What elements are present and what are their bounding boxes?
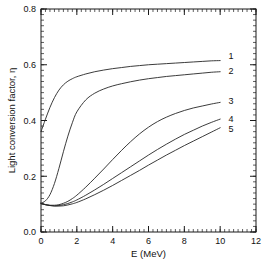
y-tick-label: 0.0 <box>23 227 36 237</box>
y-axis-title: Light conversion factor, η <box>6 68 17 174</box>
x-tick-label: 6 <box>146 236 151 246</box>
line-chart: 024681012 0.00.20.40.60.8 12345 E (MeV) … <box>0 0 275 265</box>
curve-label-1: 1 <box>228 51 233 61</box>
y-tick-label: 0.6 <box>23 60 36 70</box>
x-axis-title: E (MeV) <box>131 248 166 259</box>
y-tick-label: 0.8 <box>23 4 36 14</box>
x-tick-label: 10 <box>215 236 225 246</box>
y-tick-label: 0.4 <box>23 116 36 126</box>
curve-label-3: 3 <box>228 96 233 106</box>
x-tick-label: 2 <box>74 236 79 246</box>
curve-label-4: 4 <box>228 114 233 124</box>
y-tick-label: 0.2 <box>23 172 36 182</box>
x-tick-label: 12 <box>251 236 261 246</box>
x-tick-label: 4 <box>110 236 115 246</box>
x-tick-label: 0 <box>38 236 43 246</box>
figure-container: 024681012 0.00.20.40.60.8 12345 E (MeV) … <box>0 0 275 265</box>
curve-label-5: 5 <box>228 124 233 134</box>
x-tick-label: 8 <box>182 236 187 246</box>
curve-label-2: 2 <box>228 66 233 76</box>
